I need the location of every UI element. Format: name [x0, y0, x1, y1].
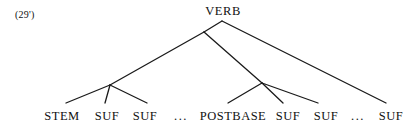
edge-root-to-left-junction: [204, 21, 222, 32]
edge-branch-to-suf-3: [262, 83, 283, 103]
leaf-suf-3: SUF: [276, 109, 300, 124]
leaf-suf-2: SUF: [133, 109, 157, 124]
leaf-ellipsis-1: ...: [174, 109, 188, 124]
leaf-suf-4: SUF: [314, 109, 338, 124]
leaf-postbase: POSTBASE: [200, 109, 267, 124]
edge-root-to-final-suffix: [222, 21, 386, 103]
edge-left-junction-to-stem-group: [110, 32, 204, 85]
edge-left-junction-to-postbase-group: [204, 32, 262, 83]
edge-branch-to-postbase: [228, 83, 262, 103]
leaf-suf-5: SUF: [379, 109, 403, 124]
leaf-ellipsis-2: ...: [351, 109, 365, 124]
edge-branch-to-suf-4: [262, 83, 318, 103]
edge-branch-to-stem: [66, 85, 110, 103]
leaf-suf-1: SUF: [95, 109, 119, 124]
leaf-stem: STEM: [44, 109, 79, 124]
edge-branch-to-suf-2: [110, 85, 147, 103]
edge-branch-to-suf-1: [105, 85, 110, 103]
verb-tree-figure: (29') VERB STEM SUF SUF ... POSTBASE SUF…: [0, 0, 415, 130]
